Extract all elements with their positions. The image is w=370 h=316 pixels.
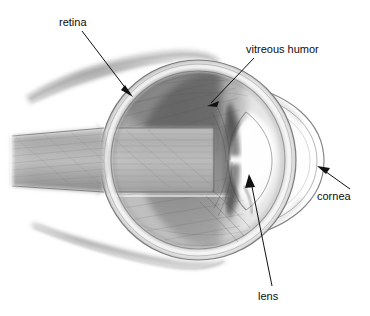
label-cornea: cornea <box>317 190 352 202</box>
eye-anatomy-figure: retina vitreous humor cornea lens <box>0 0 370 316</box>
optic-nerve-trunk <box>10 124 108 196</box>
label-lens: lens <box>258 290 279 302</box>
eye-diagram-canvas: retina vitreous humor cornea lens <box>0 0 370 316</box>
label-vitreous-humor: vitreous humor <box>246 43 319 55</box>
label-retina: retina <box>59 16 87 28</box>
